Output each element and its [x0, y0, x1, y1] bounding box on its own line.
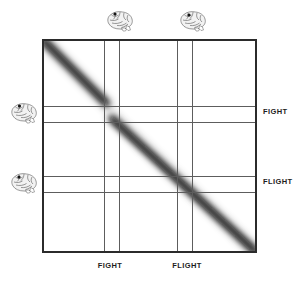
- brain-icon: [9, 171, 39, 195]
- gridline-vertical-3: [177, 41, 178, 251]
- gridline-vertical-1: [104, 41, 105, 251]
- diagonal-band: [44, 41, 255, 251]
- matrix-plot-area: [44, 41, 255, 251]
- gridline-horizontal-3: [44, 176, 255, 177]
- right-label-flight: FLIGHT: [263, 177, 292, 186]
- gridline-vertical-2: [119, 41, 120, 251]
- bottom-label-flight: FLIGHT: [160, 261, 214, 270]
- brain-icon: [178, 9, 208, 33]
- gridline-vertical-4: [192, 41, 193, 251]
- similarity-matrix-box: [42, 39, 257, 253]
- gridline-horizontal-4: [44, 192, 255, 193]
- right-label-fight: FIGHT: [263, 107, 288, 116]
- similarity-matrix-figure: FIGHT FLIGHT FIGHT FLIGHT: [0, 0, 303, 282]
- brain-icon: [9, 101, 39, 125]
- gridline-horizontal-2: [44, 122, 255, 123]
- bottom-label-fight: FIGHT: [85, 261, 135, 270]
- gridline-horizontal-1: [44, 106, 255, 107]
- brain-icon: [105, 9, 135, 33]
